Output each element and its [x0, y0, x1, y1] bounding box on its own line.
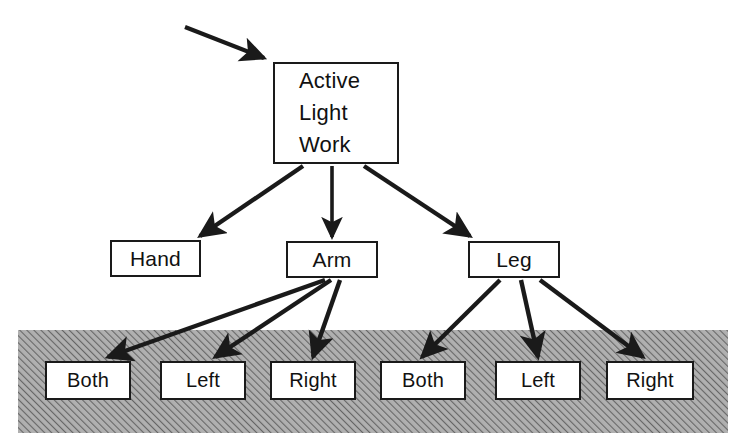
node-arm-right[interactable]: Right [270, 361, 356, 400]
node-label-leg-left: Left [521, 367, 555, 393]
node-leg-both[interactable]: Both [380, 361, 466, 400]
edge-root-to-leg [364, 166, 470, 236]
edge-external-to-root [185, 27, 264, 58]
node-hand[interactable]: Hand [110, 240, 201, 277]
node-label-leg-right: Right [626, 367, 674, 393]
node-label-line-1: Active [299, 65, 373, 97]
node-arm[interactable]: Arm [286, 241, 378, 278]
node-label-arm-left: Left [186, 367, 220, 393]
diagram-canvas: Active Light Work Hand Arm Leg Both Left… [0, 0, 739, 448]
node-label-arm: Arm [312, 246, 351, 274]
node-arm-left[interactable]: Left [160, 361, 246, 400]
node-leg[interactable]: Leg [468, 241, 560, 278]
node-label-arm-right: Right [289, 367, 337, 393]
node-leg-left[interactable]: Left [495, 361, 581, 400]
node-active-light-work[interactable]: Active Light Work [273, 62, 399, 164]
node-leg-right[interactable]: Right [606, 361, 694, 400]
node-label-arm-both: Both [67, 367, 109, 393]
edge-root-to-hand [200, 166, 303, 236]
node-arm-both[interactable]: Both [45, 361, 131, 400]
node-label-leg-both: Both [402, 367, 444, 393]
node-label-line-2: Light [299, 97, 373, 129]
node-label-line-3: Work [299, 129, 373, 161]
node-label-hand: Hand [130, 245, 181, 273]
node-label-leg: Leg [496, 246, 532, 274]
